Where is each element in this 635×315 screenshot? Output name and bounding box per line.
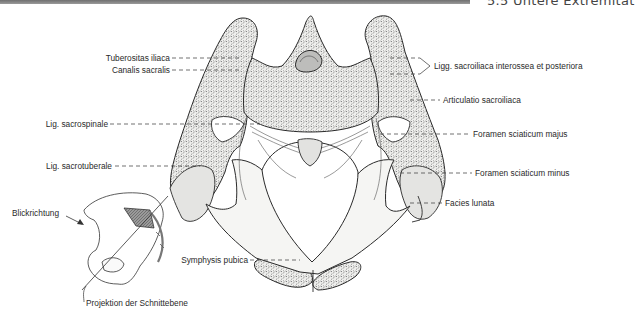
label-symphysis-pubica: Symphysis pubica [160,255,248,265]
label-blickrichtung: Blickrichtung [12,208,59,218]
label-foramen-sciaticum-minus: Foramen sciaticum minus [475,168,570,178]
inset-hip-bone [84,193,164,285]
sacrum [243,16,378,132]
label-lig-sacrospinale: Lig. sacrospinale [30,119,108,129]
label-facies-lunata: Facies lunata [445,198,494,208]
label-canalis-sacralis: Canalis sacralis [94,65,170,75]
label-lig-sacrotuberale: Lig. sacrotuberale [30,161,112,171]
label-tuberositas-iliaca: Tuberositas iliaca [94,53,170,63]
label-articulatio-sacroiliaca: Articulatio sacroiliaca [443,95,521,105]
label-ligg-sacroiliaca: Ligg. sacroiliaca interossea et posterio… [434,61,583,71]
label-projektion-schnittebene: Projektion der Schnittebene [86,298,188,308]
brace [420,58,430,74]
blickrichtung-arrow-icon [66,216,84,225]
label-foramen-sciaticum-majus: Foramen sciaticum majus [473,129,568,139]
